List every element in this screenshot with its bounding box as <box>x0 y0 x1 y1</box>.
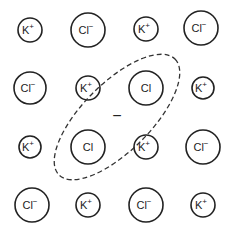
charge-superscript: − <box>202 20 207 29</box>
ion-cl-anion: Cl− <box>71 13 105 47</box>
ion-k-cation: K+ <box>76 76 100 100</box>
ion-cl-anion: Cl− <box>15 188 49 222</box>
charge-superscript: + <box>87 197 92 206</box>
ion-cl-anion: Cl− <box>14 72 46 104</box>
ion-k-cation: K+ <box>18 18 42 42</box>
charge-superscript: − <box>31 80 36 89</box>
ion-label: Cl− <box>22 197 37 211</box>
charge-superscript: + <box>145 139 150 148</box>
electron-charge-label: − <box>112 107 121 124</box>
ion-label: K+ <box>22 139 34 153</box>
ion-label: K+ <box>80 197 92 211</box>
charge-superscript: − <box>147 197 152 206</box>
charge-superscript: + <box>202 80 207 89</box>
charge-superscript: − <box>33 197 38 206</box>
charge-superscript: + <box>145 21 150 30</box>
ion-label: K+ <box>195 197 207 211</box>
ion-label: Cl− <box>191 20 206 34</box>
ion-k-cation: K+ <box>192 77 214 99</box>
charge-superscript: + <box>202 197 207 206</box>
ion-label: Cl− <box>78 22 93 36</box>
ion-k-cation: K+ <box>19 136 41 158</box>
ion-k-cation: K+ <box>134 17 158 41</box>
ion-cl-atom: Cl <box>129 71 163 105</box>
charge-superscript: + <box>29 139 34 148</box>
ion-label: Cl <box>141 82 151 94</box>
ion-label: K+ <box>138 139 150 153</box>
ion-k-cation: K+ <box>76 193 100 217</box>
ion-label: K+ <box>138 21 150 35</box>
ion-k-cation: K+ <box>134 135 158 159</box>
charge-superscript: − <box>204 139 209 148</box>
ion-cl-anion: Cl− <box>129 188 163 222</box>
charge-superscript: + <box>87 80 92 89</box>
ion-label: K+ <box>80 80 92 94</box>
ion-cl-atom: Cl <box>71 130 105 164</box>
ion-label: Cl− <box>193 139 208 153</box>
charge-superscript: + <box>29 22 34 31</box>
ion-cl-anion: Cl− <box>184 11 218 45</box>
ion-label: K+ <box>22 22 34 36</box>
ion-cl-anion: Cl− <box>186 130 220 164</box>
ion-label: Cl− <box>136 197 151 211</box>
ion-label: Cl <box>83 141 93 153</box>
ion-k-cation: K+ <box>191 193 215 217</box>
kcl-lattice-diagram: K+Cl−K+Cl−Cl−K+ClK+K+ClK+Cl−Cl−K+Cl−K+ − <box>0 0 229 233</box>
ion-label: K+ <box>195 80 207 94</box>
charge-superscript: − <box>89 22 94 31</box>
ion-label: Cl− <box>20 80 35 94</box>
